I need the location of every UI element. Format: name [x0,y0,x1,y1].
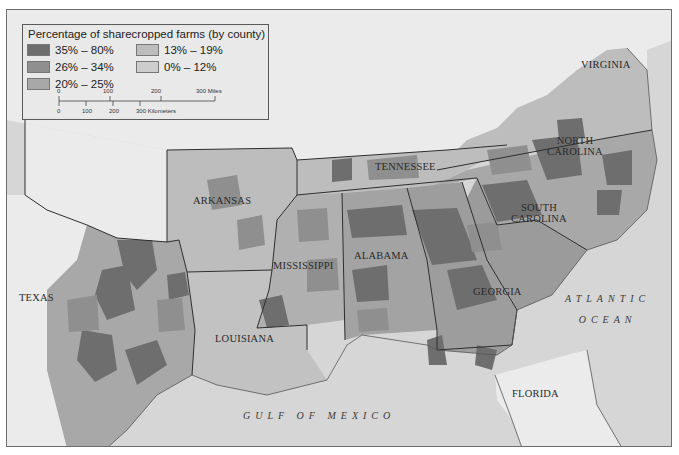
label-virginia: VIRGINIA [581,59,630,70]
label-louisiana: LOUISIANA [215,333,274,344]
scale-bar-lines [33,94,273,108]
label-south-carolina: SOUTH CAROLINA [511,202,567,224]
label-texas: TEXAS [19,292,54,303]
label-atlantic-ocean: ATLANTIC OCEAN [565,293,650,326]
label-mississippi: MISSISSIPPI [273,260,334,271]
label-florida: FLORIDA [512,388,559,399]
legend-swatch [136,61,159,73]
label-georgia: GEORGIA [473,286,522,297]
legend-swatch [136,44,159,56]
legend-item-35-80: 35% – 80% [27,43,114,57]
legend-title: Percentage of sharecropped farms (by cou… [28,28,265,40]
label-north-carolina: NORTH CAROLINA [547,135,603,157]
label-arkansas: ARKANSAS [193,195,251,206]
scale-bar: 0 100 200 300 Miles 0 100 200 300 Kilome… [33,88,273,118]
label-gulf-of-mexico: GULF OF MEXICO [243,410,395,422]
map-legend: Percentage of sharecropped farms (by cou… [22,24,269,120]
label-alabama: ALABAMA [354,250,409,261]
legend-item-26-34: 26% – 34% [27,60,114,74]
legend-swatch [27,44,50,56]
legend-item-0-12: 0% – 12% [136,60,216,74]
label-tennessee: TENNESSEE [375,161,436,172]
legend-swatch [27,61,50,73]
legend-item-13-19: 13% – 19% [136,43,223,57]
